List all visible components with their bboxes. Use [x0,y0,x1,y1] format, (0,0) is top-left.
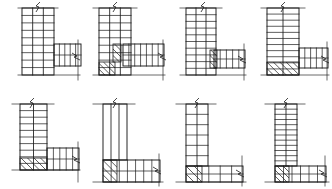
figure-e [0,94,83,188]
column-top-break [36,2,40,12]
figure-drawing-g [166,94,249,188]
beam-member [54,44,81,66]
beam-member [123,44,164,66]
figure-drawing-c [166,0,249,94]
column-outline [22,8,54,75]
beam-member [47,148,79,170]
column-outline [103,104,127,160]
beam-member [103,160,160,182]
drawing-sheet [0,0,332,189]
figure-drawing-b [83,0,166,94]
column-member [22,8,54,75]
column-member [275,104,297,166]
column-base-hatch [260,62,312,75]
figure-drawing-d [249,0,332,94]
figure-drawing-a [0,0,83,94]
beam-member [186,166,243,182]
column-top-break [113,98,117,108]
figure-drawing-e [0,94,83,188]
figure-g [166,94,249,188]
figure-f [83,94,166,188]
column-top-break [201,2,205,12]
beam-member [275,166,326,182]
figure-b [83,0,166,94]
beam-right-break [72,53,80,60]
figure-d [249,0,332,94]
figure-a [0,0,83,94]
figure-drawing-h [249,94,332,188]
column-top-break [113,2,117,12]
figure-drawing-f [83,94,166,188]
column-member [186,8,216,75]
figure-h [249,94,332,188]
column-member [103,104,127,160]
column-member [186,104,208,166]
figure-c [166,0,249,94]
beam-member [214,50,245,68]
column-base-hatch [15,158,60,170]
beam-right-break [158,53,166,60]
